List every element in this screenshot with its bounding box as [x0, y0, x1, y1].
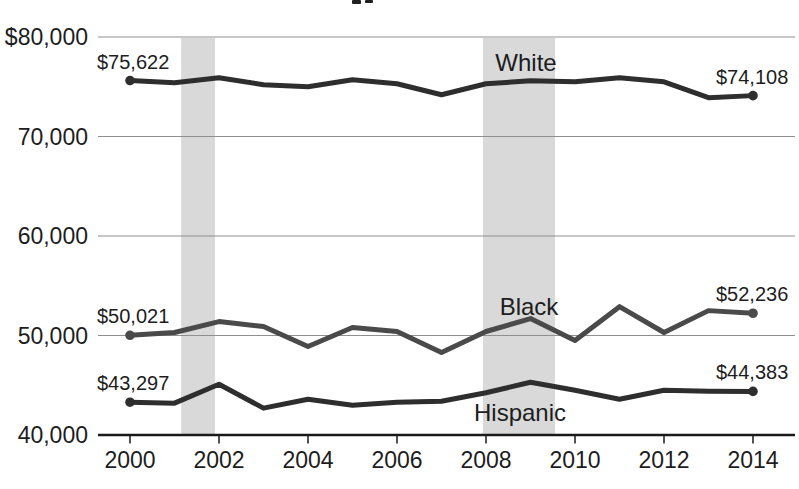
x-tick-label: 2014 — [727, 447, 778, 473]
x-tick-label: 2002 — [193, 447, 244, 473]
value-label-black-first: $50,021 — [97, 305, 169, 327]
y-tick-label: 50,000 — [18, 323, 88, 349]
value-label-white-last: $74,108 — [716, 66, 788, 88]
y-tick-label: 60,000 — [18, 223, 88, 249]
y-tick-label: 40,000 — [18, 422, 88, 448]
x-tick-label: 2012 — [638, 447, 689, 473]
chart-frame: $80,00070,00060,00050,00040,000200020022… — [0, 0, 799, 489]
series-line-hispanic — [130, 382, 753, 408]
x-tick-label: 2008 — [460, 447, 511, 473]
y-tick-label: 70,000 — [18, 124, 88, 150]
endpoint-dot-hispanic-first — [125, 397, 135, 407]
endpoint-dot-white-first — [125, 76, 135, 86]
series-label-hispanic: Hispanic — [474, 399, 566, 426]
x-tick-label: 2000 — [104, 447, 155, 473]
value-label-hispanic-last: $44,383 — [716, 361, 788, 383]
cropped-title-fragment — [365, 0, 373, 3]
value-label-white-first: $75,622 — [97, 51, 169, 73]
x-tick-label: 2004 — [282, 447, 333, 473]
y-tick-label: $80,000 — [5, 24, 88, 50]
x-tick-label: 2010 — [549, 447, 600, 473]
series-label-black: Black — [500, 293, 560, 320]
series-line-black — [130, 307, 753, 353]
series-label-white: White — [495, 49, 556, 76]
value-label-hispanic-first: $43,297 — [97, 372, 169, 394]
income-line-chart: $80,00070,00060,00050,00040,000200020022… — [0, 0, 799, 489]
series-line-white — [130, 78, 753, 98]
cropped-title-fragment — [352, 0, 361, 4]
value-label-black-last: $52,236 — [716, 283, 788, 305]
x-tick-label: 2006 — [371, 447, 422, 473]
endpoint-dot-hispanic-last — [748, 387, 758, 397]
endpoint-dot-black-last — [748, 308, 758, 318]
endpoint-dot-white-last — [748, 91, 758, 101]
endpoint-dot-black-first — [125, 330, 135, 340]
